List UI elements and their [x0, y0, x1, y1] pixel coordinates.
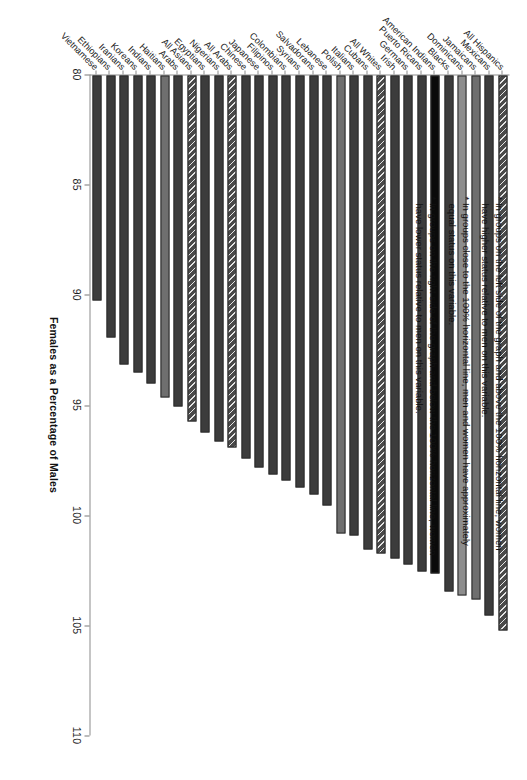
- bar-row: [187, 75, 196, 735]
- bar-row: [363, 75, 372, 735]
- value-tick: [84, 625, 89, 626]
- bar: [336, 75, 345, 533]
- value-tick: [84, 74, 89, 75]
- bar-row: [173, 75, 182, 735]
- footnote: * In groups close to the 100% horizontal…: [445, 196, 472, 568]
- value-tick: [84, 184, 89, 185]
- category-tick: [217, 70, 218, 74]
- bar: [173, 75, 182, 406]
- bar-row: [376, 75, 385, 735]
- bar: [254, 75, 263, 467]
- bar: [295, 75, 304, 487]
- footnote: * In groups on the left side of the grap…: [478, 196, 505, 568]
- value-tick: [84, 294, 89, 295]
- bar: [268, 75, 277, 474]
- bar: [133, 75, 142, 372]
- bar: [309, 75, 318, 494]
- bar: [187, 75, 196, 421]
- category-tick: [447, 70, 448, 74]
- footnote: * In groups on the right side of the gra…: [411, 196, 438, 568]
- bar-row: [106, 75, 115, 735]
- bar-row: [349, 75, 358, 735]
- bar: [160, 75, 169, 397]
- bar: [363, 75, 372, 549]
- bar-row: [200, 75, 209, 735]
- category-tick: [366, 70, 367, 74]
- bar-row: [241, 75, 250, 735]
- value-tick: [84, 405, 89, 406]
- bar: [322, 75, 331, 505]
- bar-row: [92, 75, 101, 735]
- category-tick: [488, 70, 489, 74]
- value-axis-title: Females as a Percentage of Males: [47, 74, 59, 735]
- category-tick: [230, 70, 231, 74]
- bar: [119, 75, 128, 364]
- value-tick-label: 100: [70, 506, 82, 524]
- bar: [282, 75, 291, 480]
- bar: [227, 75, 236, 447]
- category-tick: [149, 70, 150, 74]
- category-tick: [108, 70, 109, 74]
- category-axis: All HispanicsMexicansJamaicansDominicans…: [103, 74, 523, 114]
- bar-row: [214, 75, 223, 735]
- category-tick: [244, 70, 245, 74]
- category-tick: [406, 70, 407, 74]
- category-tick: [393, 70, 394, 74]
- category-tick: [433, 70, 434, 74]
- category-tick: [95, 70, 96, 74]
- value-tick: [84, 515, 89, 516]
- category-tick: [352, 70, 353, 74]
- category-tick: [474, 70, 475, 74]
- bar-row: [160, 75, 169, 735]
- rotated-figure-wrapper: All HispanicsMexicansJamaicansDominicans…: [0, 0, 527, 780]
- value-tick-label: 95: [70, 398, 82, 410]
- bar: [92, 75, 101, 300]
- bar-row: [390, 75, 399, 735]
- bar-row: [254, 75, 263, 735]
- bar-row: [336, 75, 345, 735]
- category-tick: [271, 70, 272, 74]
- bar: [146, 75, 155, 383]
- bar: [241, 75, 250, 458]
- bar: [214, 75, 223, 441]
- footnote-block: * In groups on the left side of the grap…: [411, 196, 505, 568]
- bar: [200, 75, 209, 432]
- value-tick-label: 105: [70, 616, 82, 634]
- value-tick: [84, 735, 89, 736]
- category-tick: [339, 70, 340, 74]
- bar-row: [295, 75, 304, 735]
- value-tick-label: 90: [70, 288, 82, 300]
- bar-chart-figure: All HispanicsMexicansJamaicansDominicans…: [0, 0, 527, 780]
- bar-row: [227, 75, 236, 735]
- category-tick: [312, 70, 313, 74]
- category-tick: [122, 70, 123, 74]
- bar: [403, 75, 412, 564]
- bar: [390, 75, 399, 558]
- bar: [349, 75, 358, 535]
- bar: [376, 75, 385, 553]
- bar-row: [403, 75, 412, 735]
- bar-row: [268, 75, 277, 735]
- category-tick: [461, 70, 462, 74]
- category-tick: [420, 70, 421, 74]
- category-tick: [501, 70, 502, 74]
- category-tick: [379, 70, 380, 74]
- bar-row: [146, 75, 155, 735]
- category-tick: [257, 70, 258, 74]
- category-tick: [298, 70, 299, 74]
- category-tick: [176, 70, 177, 74]
- category-tick: [135, 70, 136, 74]
- bar-row: [133, 75, 142, 735]
- value-tick-label: 110: [70, 726, 82, 743]
- bar-row: [282, 75, 291, 735]
- category-tick: [163, 70, 164, 74]
- bar-row: [322, 75, 331, 735]
- value-tick-label: 80: [70, 68, 82, 80]
- category-tick: [284, 70, 285, 74]
- bar-row: [309, 75, 318, 735]
- value-tick-label: 85: [70, 178, 82, 190]
- bar-row: [119, 75, 128, 735]
- category-tick: [203, 70, 204, 74]
- category-tick: [190, 70, 191, 74]
- category-tick: [325, 70, 326, 74]
